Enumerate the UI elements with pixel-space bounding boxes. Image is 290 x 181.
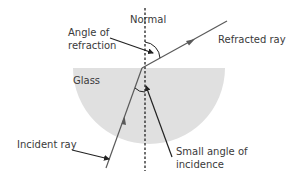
small-angle-label-line1: Small angle of xyxy=(176,146,248,157)
refracted-ray-label: Refracted ray xyxy=(218,34,286,45)
angle-of-refraction-arc xyxy=(145,42,160,58)
angle-of-refraction-label-line2: refraction xyxy=(68,40,116,51)
refraction-diagram: Normal Angle of refraction Refracted ray… xyxy=(0,0,290,181)
normal-label: Normal xyxy=(130,14,166,25)
pointer-incident-ray xyxy=(72,150,109,159)
glass-label: Glass xyxy=(73,75,100,86)
small-angle-label-line2: incidence xyxy=(176,159,224,170)
refracted-ray-arrow-icon xyxy=(186,39,195,46)
incident-ray-label: Incident ray xyxy=(17,139,77,150)
refracted-ray xyxy=(142,21,227,68)
angle-of-refraction-label-line1: Angle of xyxy=(68,27,110,38)
